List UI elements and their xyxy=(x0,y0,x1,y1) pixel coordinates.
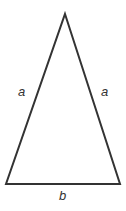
label-left-leg: a xyxy=(18,85,25,98)
triangle-outline xyxy=(6,14,120,184)
label-base: b xyxy=(59,189,66,202)
triangle-shape xyxy=(0,0,126,211)
triangle-figure: a a b xyxy=(0,0,126,211)
label-right-leg: a xyxy=(101,85,108,98)
